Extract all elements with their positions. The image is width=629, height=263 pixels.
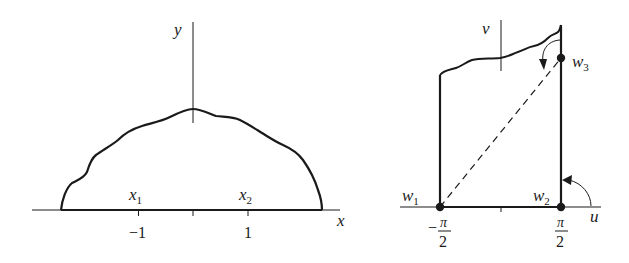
svg-text:2: 2 — [556, 233, 564, 250]
dashed-diagonal — [440, 58, 561, 207]
point-w2 — [557, 203, 565, 211]
v-axis-label: v — [482, 19, 490, 38]
svg-text:2: 2 — [439, 233, 447, 250]
semicircle-boundary — [61, 109, 322, 210]
y-axis-label: y — [172, 20, 182, 39]
arrowhead-w2 — [562, 175, 572, 185]
label-w3: w3 — [572, 52, 589, 73]
label-x1: x1 — [128, 185, 142, 206]
label-w2: w2 — [533, 186, 550, 207]
tick-label-1: 1 — [244, 224, 252, 241]
tick-label-pi-over-2: π 2 — [555, 215, 568, 250]
angle-arrow-w2 — [569, 180, 591, 206]
point-w3 — [557, 54, 565, 62]
left-plane: y x x1 x2 −1 1 — [32, 20, 345, 241]
diagram-canvas: y x x1 x2 −1 1 — [0, 0, 629, 263]
svg-text:π: π — [557, 215, 565, 230]
tick-label-minus-pi-over-2: − π 2 — [428, 215, 451, 250]
u-axis-label: u — [590, 207, 599, 226]
label-x2: x2 — [238, 185, 252, 206]
point-w1 — [436, 203, 444, 211]
svg-text:π: π — [440, 215, 448, 230]
x-axis-label: x — [336, 211, 345, 230]
label-w1: w1 — [402, 186, 419, 207]
svg-text:−: − — [428, 219, 437, 236]
arrowhead-w3 — [539, 59, 547, 70]
right-plane: v u w1 w2 w3 − π 2 π 2 — [400, 19, 601, 250]
tick-label-minus-1: −1 — [129, 224, 146, 241]
